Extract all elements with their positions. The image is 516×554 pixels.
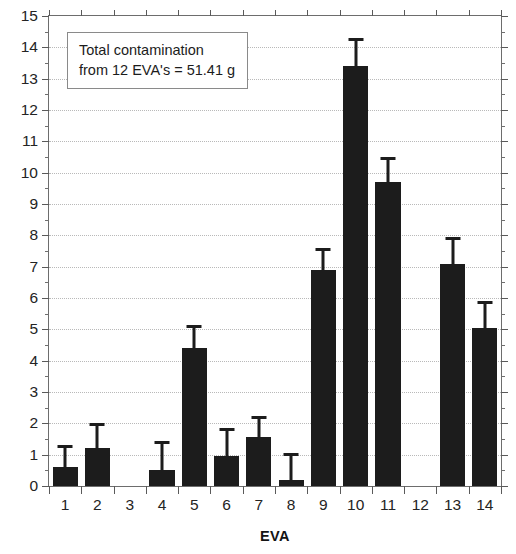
y-axis-minor-tick [45, 408, 49, 409]
y-axis-label: 0 [29, 478, 38, 494]
gridline [49, 141, 501, 142]
bar-chart: 0123456789101112131415123456789101112131… [0, 0, 516, 554]
x-axis-label: 2 [93, 497, 102, 513]
x-axis-title: EVA [48, 528, 502, 544]
annotation-box: Total contamination from 12 EVA's = 51.4… [67, 32, 248, 89]
y-axis-tick [42, 173, 49, 174]
y-axis-label: 9 [29, 196, 38, 212]
y-axis-tick [42, 79, 49, 80]
x-axis-label: 14 [476, 497, 493, 513]
gridline [49, 392, 501, 393]
error-bar-stem [225, 428, 228, 456]
bar [311, 270, 336, 486]
y-axis-label: 4 [29, 353, 38, 369]
x-axis-tick [114, 486, 115, 494]
y-axis-minor-tick [45, 94, 49, 95]
y-axis-label: 1 [29, 447, 38, 463]
y-axis-tick [42, 141, 49, 142]
y-axis-minor-tick-right [501, 408, 505, 409]
y-axis-tick [42, 486, 49, 487]
error-bar-stem [322, 248, 325, 270]
y-axis-tick-right [501, 47, 508, 48]
x-axis-label: 10 [347, 497, 364, 513]
bar [246, 437, 271, 486]
x-axis-tick [372, 486, 373, 494]
y-axis-tick [42, 361, 49, 362]
bar [472, 328, 497, 486]
x-axis-tick [81, 486, 82, 494]
error-bar-cap [477, 301, 492, 304]
error-bar-stem [64, 445, 67, 467]
gridline [49, 329, 501, 330]
x-axis-label: 11 [380, 497, 396, 513]
y-axis-minor-tick [45, 376, 49, 377]
y-axis-label: 5 [29, 322, 38, 338]
x-axis-tick-top [243, 10, 244, 16]
error-bar-stem [96, 423, 99, 448]
y-axis-minor-tick-right [501, 251, 505, 252]
y-axis-minor-tick-right [501, 345, 505, 346]
x-axis-tick-top [372, 10, 373, 16]
bar [440, 264, 465, 486]
x-axis-tick-top [340, 10, 341, 16]
y-axis-minor-tick [45, 157, 49, 158]
y-axis-tick-right [501, 173, 508, 174]
y-axis-minor-tick-right [501, 376, 505, 377]
y-axis-tick [42, 267, 49, 268]
x-axis-tick [210, 486, 211, 494]
gridline [49, 361, 501, 362]
error-bar-cap [316, 248, 331, 251]
x-axis-label: 8 [287, 497, 296, 513]
x-axis-label: 7 [255, 497, 264, 513]
error-bar-cap [348, 38, 363, 41]
y-axis-label: 10 [21, 165, 38, 181]
y-axis-tick [42, 455, 49, 456]
y-axis-minor-tick [45, 126, 49, 127]
x-axis-tick-top [436, 10, 437, 16]
x-axis-tick [146, 486, 147, 494]
gridline [49, 173, 501, 174]
x-axis-label: 5 [190, 497, 199, 513]
y-axis-minor-tick-right [501, 282, 505, 283]
x-axis-label: 13 [444, 497, 461, 513]
error-bar-stem [290, 453, 293, 480]
y-axis-label: 12 [21, 102, 38, 118]
error-bar-cap [284, 453, 299, 456]
y-axis-tick [42, 110, 49, 111]
y-axis-tick-right [501, 361, 508, 362]
x-axis-tick-top [146, 10, 147, 16]
x-axis-tick [340, 486, 341, 494]
error-bar-cap [58, 445, 73, 448]
y-axis-tick [42, 47, 49, 48]
y-axis-label: 7 [29, 259, 38, 275]
y-axis-minor-tick-right [501, 470, 505, 471]
y-axis-minor-tick-right [501, 439, 505, 440]
x-axis-label: 1 [61, 497, 70, 513]
plot-area: 0123456789101112131415123456789101112131… [48, 15, 502, 487]
y-axis-minor-tick [45, 251, 49, 252]
x-axis-label: 4 [158, 497, 167, 513]
x-axis-tick-top [81, 10, 82, 16]
y-axis-minor-tick-right [501, 126, 505, 127]
gridline [49, 204, 501, 205]
error-bar-stem [451, 237, 454, 264]
x-axis-label: 12 [412, 497, 429, 513]
gridline [49, 235, 501, 236]
y-axis-minor-tick-right [501, 94, 505, 95]
y-axis-minor-tick [45, 32, 49, 33]
y-axis-tick-right [501, 141, 508, 142]
x-axis-tick [243, 486, 244, 494]
bar [85, 448, 110, 486]
x-axis-tick [49, 486, 50, 494]
y-axis-label: 13 [21, 71, 38, 87]
y-axis-label: 15 [21, 8, 38, 24]
error-bar-stem [193, 325, 196, 349]
y-axis-minor-tick-right [501, 32, 505, 33]
y-axis-tick [42, 392, 49, 393]
x-axis-tick [469, 486, 470, 494]
annotation-line-2: from 12 EVA's = 51.41 g [79, 60, 235, 80]
y-axis-tick-right [501, 110, 508, 111]
x-axis-tick-top [210, 10, 211, 16]
y-axis-minor-tick-right [501, 63, 505, 64]
bar [214, 456, 239, 486]
